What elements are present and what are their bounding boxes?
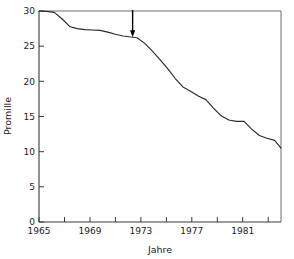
plot-frame-top-right bbox=[39, 11, 281, 222]
y-ticklabel-10: 10 bbox=[24, 147, 36, 157]
y-ticklabel-25: 25 bbox=[24, 41, 35, 51]
y-axis-ticklabels: 0 5 10 15 20 25 30 bbox=[24, 6, 36, 227]
x-ticklabel-1973: 1973 bbox=[129, 226, 152, 236]
plot-axes bbox=[39, 11, 281, 222]
y-ticklabel-15: 15 bbox=[24, 112, 35, 122]
x-ticklabel-1977: 1977 bbox=[180, 226, 203, 236]
data-series-promille bbox=[39, 11, 281, 148]
down-arrow-icon bbox=[130, 10, 135, 37]
y-ticklabel-20: 20 bbox=[24, 77, 36, 87]
x-axis-title: Jahre bbox=[147, 244, 172, 255]
y-axis-title: Promille bbox=[2, 97, 13, 135]
chart-figure: 0 5 10 15 20 25 30 1965 1969 1973 1977 bbox=[0, 0, 294, 259]
line-chart-plot: 0 5 10 15 20 25 30 1965 1969 1973 1977 bbox=[0, 0, 294, 259]
y-ticklabel-30: 30 bbox=[24, 6, 36, 16]
x-axis-ticks bbox=[39, 217, 268, 222]
x-ticklabel-1969: 1969 bbox=[79, 226, 102, 236]
x-ticklabel-1965: 1965 bbox=[28, 226, 51, 236]
y-axis-ticks bbox=[39, 11, 44, 222]
x-axis-ticklabels: 1965 1969 1973 1977 1981 bbox=[28, 226, 255, 236]
y-ticklabel-5: 5 bbox=[29, 182, 35, 192]
x-ticklabel-1981: 1981 bbox=[231, 226, 254, 236]
